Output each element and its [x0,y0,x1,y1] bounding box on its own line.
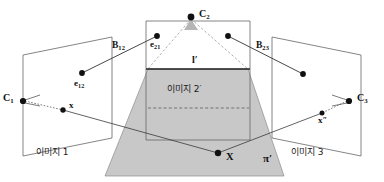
label-camera-3-subscript: 3 [364,97,368,104]
label-point-x-text: x [69,100,74,110]
label-plane-pi-prime: π′ [263,153,272,164]
label-baseline-12: B12 [112,41,125,51]
label-point-x-double-prime: x″ [318,116,327,125]
point-dot-e21 [154,33,160,39]
point-dot-c3 [346,98,352,104]
label-camera-2-subscript: 2 [206,13,210,20]
label-baseline-23-subscript: 23 [262,44,269,51]
image-plane-3 [272,37,361,156]
label-baseline-23: B23 [256,41,269,51]
point-dot-e12 [79,70,85,76]
label-point-x: x [69,101,74,110]
point-dot-world-x [215,150,221,156]
label-epipole-12: e12 [74,79,85,89]
label-camera-2: C2 [199,9,210,21]
point-dot-c1 [20,98,26,104]
label-camera-1-subscript: 1 [10,97,14,104]
label-image-2-prime-text: 이미지 2 [167,84,200,94]
label-plane-pi-prime-mark: ′ [269,153,272,164]
label-epipole-12-subscript: 12 [78,83,85,89]
label-epipole-21: e21 [150,40,161,50]
cone-edge-right [191,19,249,70]
label-world-point-x-text: X [226,151,234,162]
point-dot-x-left [60,107,65,112]
label-baseline-12-subscript: 12 [118,44,125,51]
label-point-x-double-prime-mark: ″ [323,115,328,125]
label-line-l-prime: l′ [192,55,197,66]
label-image-1: 이미지 1 [36,148,69,157]
point-dot-e32 [300,71,306,77]
point-dot-e23 [225,33,231,39]
label-image-3-text: 이미지 3 [291,147,324,157]
label-camera-3: C3 [357,93,368,105]
epipolar-geometry-figure: C1 C2 C3 e12 e21 B12 B23 x x″ X l′ π′ [0,0,384,182]
label-image-3: 이미지 3 [291,148,324,157]
label-image-1-text: 이미지 1 [36,147,69,157]
label-epipole-21-subscript: 21 [154,44,161,50]
label-image-2-prime-mark: ′ [200,84,202,94]
label-image-2-prime: 이미지 2′ [167,85,202,94]
label-camera-1: C1 [3,93,14,105]
label-line-l-prime-mark: ′ [195,55,198,65]
point-dot-c2 [188,14,195,21]
label-world-point-x: X [226,152,234,163]
